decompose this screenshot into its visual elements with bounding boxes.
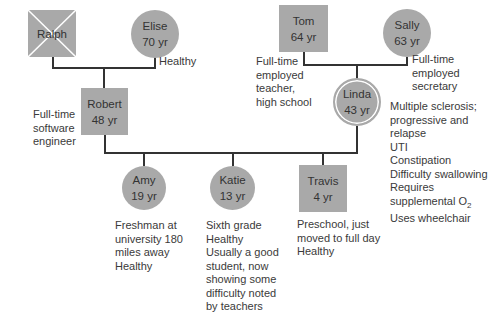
robert-node: Robert 48 yr <box>81 88 128 135</box>
katie-node: Katie 13 yr <box>210 166 255 210</box>
elise-node: Elise 70 yr <box>131 10 179 58</box>
travis-name: Travis <box>308 173 339 189</box>
robert-name: Robert <box>87 96 122 112</box>
robert-age: 48 yr <box>92 112 118 128</box>
tom-node: Tom 64 yr <box>279 5 328 52</box>
linda-node: Linda 43 yr <box>333 78 381 126</box>
elise-notes: Healthy <box>159 55 196 69</box>
linda-notes: Multiple sclerosis; progressive and rela… <box>390 100 488 226</box>
linda-descent-line <box>356 64 358 79</box>
linda-name: Linda <box>343 86 371 102</box>
sally-name: Sally <box>395 17 420 33</box>
robert-descent-line <box>103 67 105 88</box>
amy-notes: Freshman at university 180 miles away He… <box>115 219 183 273</box>
sally-age: 63 yr <box>394 33 420 49</box>
amy-node: Amy 19 yr <box>122 166 166 210</box>
ralph-node: Ralph <box>28 10 76 57</box>
ralph-name: Ralph <box>37 26 67 42</box>
linda-marriage-drop-line <box>356 126 358 153</box>
travis-node: Travis 4 yr <box>299 165 347 212</box>
katie-notes: Sixth grade Healthy Usually a good stude… <box>206 219 279 314</box>
tom-age: 64 yr <box>291 29 317 45</box>
sally-notes: Full-time employed secretary <box>412 53 460 94</box>
katie-age: 13 yr <box>220 188 246 204</box>
amy-descent-line <box>143 152 145 166</box>
katie-name: Katie <box>219 172 245 188</box>
sally-node: Sally 63 yr <box>383 9 431 57</box>
katie-descent-line <box>232 152 234 166</box>
travis-age: 4 yr <box>313 189 332 205</box>
robert-notes: Full-time software engineer <box>33 108 76 149</box>
amy-name: Amy <box>133 172 156 188</box>
travis-notes: Preschool, just moved to full day Health… <box>297 218 380 259</box>
elise-age: 70 yr <box>142 34 168 50</box>
tom-name: Tom <box>293 13 315 29</box>
linda-age: 43 yr <box>344 102 370 118</box>
travis-descent-line <box>322 152 324 165</box>
tom-notes: Full-time employed teacher, high school <box>256 55 312 109</box>
elise-name: Elise <box>143 18 168 34</box>
amy-age: 19 yr <box>131 188 157 204</box>
